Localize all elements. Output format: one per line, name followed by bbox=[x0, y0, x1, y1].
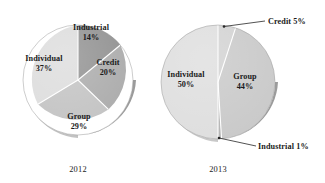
pie-chart-2012: Industrial 14% Credit 20% Group 29% Indi… bbox=[23, 23, 136, 174]
pie-2012-label-industrial-pct: 14% bbox=[83, 33, 100, 42]
pie-2012-label-group-name: Group bbox=[67, 112, 91, 121]
pie-2012-label-credit-name: Credit bbox=[96, 58, 119, 67]
pie-2012-label-individual-name: Individual bbox=[25, 54, 63, 63]
pie-2013-callout-industrial: Industrial 1% bbox=[218, 137, 309, 151]
pie-2013-label-individual-name: Individual bbox=[167, 70, 205, 79]
pie-chart-figure: Industrial 14% Credit 20% Group 29% Indi… bbox=[0, 0, 325, 183]
pie-2013-label-individual-pct: 50% bbox=[178, 80, 195, 89]
pie-2012-label-individual-pct: 37% bbox=[36, 64, 53, 73]
pie-2012-label-industrial-name: Industrial bbox=[73, 23, 110, 32]
pie-2012-year-caption: 2012 bbox=[69, 165, 87, 174]
pie-2013-callout-credit-label: Credit 5% bbox=[268, 17, 306, 26]
pie-2013-callout-credit: Credit 5% bbox=[223, 17, 306, 28]
pie-2013-leader-industrial bbox=[219, 138, 256, 146]
pie-2012-label-credit-pct: 20% bbox=[100, 68, 117, 77]
pie-2013-leader-credit-dot bbox=[223, 25, 226, 28]
pie-2012-label-credit: Credit 20% bbox=[96, 58, 119, 77]
pie-2013-label-group-name: Group bbox=[233, 72, 257, 81]
pie-2013-label-group-pct: 44% bbox=[237, 82, 254, 91]
pie-2013-leader-industrial-dot bbox=[218, 137, 221, 140]
pie-2013-callout-industrial-label: Industrial 1% bbox=[258, 142, 309, 151]
pie-2012-label-group-pct: 29% bbox=[71, 122, 88, 131]
charts-canvas: Industrial 14% Credit 20% Group 29% Indi… bbox=[0, 0, 325, 183]
pie-2013-year-caption: 2013 bbox=[209, 165, 227, 174]
pie-2013-leader-credit bbox=[224, 21, 265, 27]
pie-chart-2013: Individual 50% Group 44% Credit 5% Indus… bbox=[161, 17, 309, 174]
